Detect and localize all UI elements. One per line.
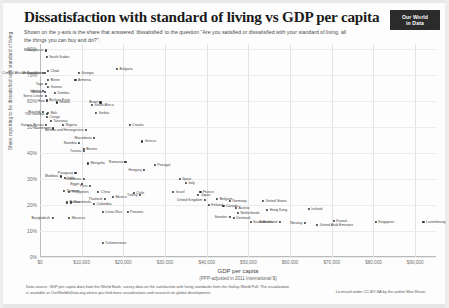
data-point[interactable] xyxy=(249,221,251,223)
data-point[interactable] xyxy=(93,136,95,138)
data-point-label: Mexico xyxy=(115,195,126,199)
data-point[interactable] xyxy=(104,198,106,200)
data-point-label: Namibia xyxy=(64,141,77,145)
data-point[interactable] xyxy=(62,123,64,125)
data-point-label: Bolivia xyxy=(70,200,80,204)
data-point-label: Israel xyxy=(176,190,185,194)
data-point[interactable] xyxy=(56,101,58,103)
data-point[interactable] xyxy=(101,210,103,212)
data-point[interactable] xyxy=(422,221,424,223)
data-point[interactable] xyxy=(308,208,310,210)
data-point[interactable] xyxy=(47,79,49,81)
data-point[interactable] xyxy=(116,68,118,70)
data-point[interactable] xyxy=(74,172,76,174)
data-point-label: Bangladesh xyxy=(31,216,50,220)
gridline-horizontal xyxy=(40,257,436,258)
data-point-label: Haiti xyxy=(38,99,45,103)
data-point[interactable] xyxy=(154,164,156,166)
x-axis-tick-label: $20,000 xyxy=(115,260,132,265)
data-point[interactable] xyxy=(50,120,52,122)
data-point[interactable] xyxy=(185,182,187,184)
data-point[interactable] xyxy=(126,210,128,212)
data-point[interactable] xyxy=(78,72,80,74)
data-point-label: Macedonia xyxy=(74,136,91,140)
data-point[interactable] xyxy=(45,123,47,125)
data-point[interactable] xyxy=(60,175,62,177)
data-point[interactable] xyxy=(216,198,218,200)
scan-edge-right xyxy=(445,0,449,308)
data-point-label: Turkmenistan xyxy=(105,241,126,245)
data-point-label: Armenia xyxy=(78,78,91,82)
y-axis-title: Share reporting to be dissatisfied with … xyxy=(8,32,13,150)
data-point[interactable] xyxy=(197,194,199,196)
data-point[interactable] xyxy=(237,212,239,214)
data-point[interactable] xyxy=(112,196,114,198)
data-point[interactable] xyxy=(333,220,335,222)
logo-line-2: in Data xyxy=(406,20,424,27)
data-point[interactable] xyxy=(266,209,268,211)
data-point-label: Greece xyxy=(145,139,157,143)
y-axis-tick-label: 20% xyxy=(27,202,37,208)
data-point[interactable] xyxy=(63,190,65,192)
data-point[interactable] xyxy=(222,205,224,207)
data-point[interactable] xyxy=(54,92,56,94)
data-point[interactable] xyxy=(204,199,206,201)
gridline-horizontal xyxy=(40,75,436,76)
data-point[interactable] xyxy=(101,242,103,244)
data-point[interactable] xyxy=(78,142,80,144)
data-point[interactable] xyxy=(129,123,131,125)
data-point[interactable] xyxy=(304,222,306,224)
data-point[interactable] xyxy=(45,49,47,51)
data-point-label: Bosnia xyxy=(86,147,97,151)
data-point[interactable] xyxy=(316,223,318,225)
data-point[interactable] xyxy=(68,191,70,193)
data-point-label: Netherlands xyxy=(241,211,260,215)
data-point-label: Nigeria xyxy=(66,123,77,127)
data-point[interactable] xyxy=(66,201,68,203)
data-point[interactable] xyxy=(44,91,46,93)
data-point[interactable] xyxy=(45,95,47,97)
data-point-label: South Sudan xyxy=(49,55,69,59)
data-point[interactable] xyxy=(95,112,97,114)
data-point[interactable] xyxy=(124,161,126,163)
data-point[interactable] xyxy=(51,217,53,219)
data-point[interactable] xyxy=(262,200,264,202)
x-axis-title: GDP per capita (PPP-adjusted in 2011 int… xyxy=(40,268,436,282)
data-point-label: Philippines xyxy=(72,190,89,194)
data-point[interactable] xyxy=(44,72,46,74)
data-point[interactable] xyxy=(47,70,49,72)
data-point[interactable] xyxy=(91,104,93,106)
data-point-label: Singapore xyxy=(378,220,394,224)
data-point[interactable] xyxy=(85,129,87,131)
data-point[interactable] xyxy=(46,116,48,118)
data-point[interactable] xyxy=(47,86,49,88)
data-point[interactable] xyxy=(139,194,141,196)
data-point[interactable] xyxy=(233,217,235,219)
data-point[interactable] xyxy=(375,221,377,223)
data-point[interactable] xyxy=(97,191,99,193)
data-point[interactable] xyxy=(87,162,89,164)
data-point-label: Croatia xyxy=(132,123,143,127)
data-point[interactable] xyxy=(229,216,231,218)
data-point-label: Finland xyxy=(211,203,223,207)
data-point[interactable] xyxy=(68,217,70,219)
data-point-label: Guinea xyxy=(50,85,61,89)
data-point[interactable] xyxy=(46,56,48,58)
data-point[interactable] xyxy=(235,207,237,209)
x-axis-title-main: GDP per capita xyxy=(40,268,436,276)
y-axis-tick-label: 10% xyxy=(27,228,37,234)
data-point-label: Denmark xyxy=(236,216,250,220)
data-point[interactable] xyxy=(143,169,145,171)
data-point-label: Panama xyxy=(130,210,143,214)
data-point-label: Zambia xyxy=(58,91,70,95)
data-point[interactable] xyxy=(89,185,91,187)
scan-edge-top xyxy=(0,0,449,3)
data-point-label: Mozambique xyxy=(22,71,42,75)
data-point[interactable] xyxy=(172,191,174,193)
our-world-in-data-logo[interactable]: Our World in Data xyxy=(390,10,440,30)
data-point[interactable] xyxy=(279,221,281,223)
y-axis-tick-label: 60% xyxy=(27,98,37,104)
data-point[interactable] xyxy=(74,79,76,81)
data-point[interactable] xyxy=(229,200,231,202)
data-point[interactable] xyxy=(141,140,143,142)
